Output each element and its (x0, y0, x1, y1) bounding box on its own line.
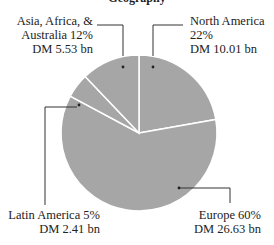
label-north-america: North America 22% DM 10.01 bn (190, 14, 265, 56)
label-text: Australia 12% (0, 28, 93, 42)
label-text: Europe 60% (180, 208, 261, 222)
label-text: DM 26.63 bn (180, 222, 261, 236)
label-europe: Europe 60% DM 26.63 bn (180, 208, 261, 236)
label-text: Latin America 5% (0, 208, 100, 222)
label-text: DM 2.41 bn (0, 222, 100, 236)
label-latin-america: Latin America 5% DM 2.41 bn (0, 208, 100, 236)
label-text: 22% (190, 28, 265, 42)
label-text: DM 5.53 bn (0, 42, 93, 56)
label-text: North America (190, 14, 265, 28)
label-text: DM 10.01 bn (190, 42, 265, 56)
label-text: Asia, Africa, & (0, 14, 93, 28)
label-asia-africa-australia: Asia, Africa, & Australia 12% DM 5.53 bn (0, 14, 93, 56)
